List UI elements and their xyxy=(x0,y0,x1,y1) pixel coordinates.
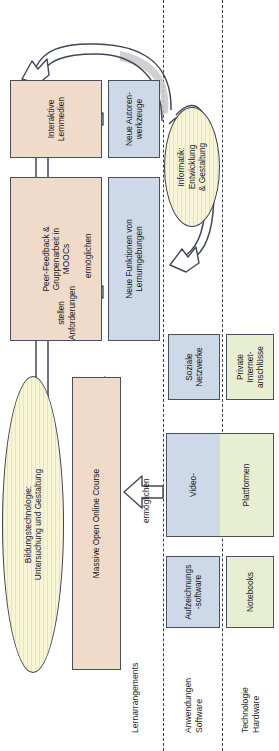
node-informatik[interactable]: Informatik: Entwicklung & Gestaltung xyxy=(164,107,220,227)
node-private-internetanschluesse[interactable]: Private Internet- anschlüsse xyxy=(226,334,274,400)
node-label-top: Video- xyxy=(188,473,198,497)
lane-label-lernarrangements: Lernarrangements xyxy=(130,663,141,733)
node-mooc[interactable]: Massive Open Online Course xyxy=(72,377,121,670)
node-label: Soziale Netzwerke xyxy=(184,347,204,387)
node-bildungstechnologie[interactable]: Bildungstechnologie: Untersuchung und Ge… xyxy=(2,376,64,673)
node-label: Massive Open Online Course xyxy=(91,469,101,578)
edge-label-ermoeglichen-top: ermöglichen xyxy=(84,233,94,278)
node-video-plattformen-bottom-half: Plattformen xyxy=(220,434,273,536)
node-neue-funktionen[interactable]: Neue Funktionen von Lernumgebungen xyxy=(108,177,160,341)
node-label: Aufzeichnungs -software xyxy=(183,565,203,620)
node-label: Interaktive Lernmedien xyxy=(46,97,66,141)
edge-label-ermoeglichen-bottom: ermöglichen xyxy=(142,478,152,523)
node-label: Notebooks xyxy=(245,572,255,612)
node-label: Neue Autoren- werkzeuge xyxy=(124,92,144,146)
node-neue-autorenwerkzeuge[interactable]: Neue Autoren- werkzeuge xyxy=(108,80,160,158)
node-label: Peer-Feedback & Gruppenarbeit in MOOCs xyxy=(41,226,72,291)
node-label-bottom: Plattformen xyxy=(241,464,251,507)
lane-label-anwendungen-software: Anwendungen Software xyxy=(183,678,204,733)
node-label: Bildungstechnologie: Untersuchung und Ge… xyxy=(23,469,44,580)
node-aufzeichnungssoftware[interactable]: Aufzeichnungs -software xyxy=(166,556,220,628)
lane-label-technologie-hardware: Technologie Hardware xyxy=(240,687,261,733)
lane-divider-anwendungen-technologie xyxy=(222,0,223,751)
lane-divider-lernarrangements-anwendungen xyxy=(163,0,164,751)
node-video-plattformen-top-half: Video- xyxy=(167,434,220,536)
node-label: Neue Funktionen von Lernumgebungen xyxy=(124,219,144,299)
node-label: Informatik: Entwicklung & Gestaltung xyxy=(176,143,207,191)
diagram-canvas: Lernarrangements Anwendungen Software Te… xyxy=(0,0,279,751)
arrowhead-to-funktionen xyxy=(170,247,199,272)
node-notebooks[interactable]: Notebooks xyxy=(226,556,274,628)
node-interaktive-lernmedien[interactable]: Interaktive Lernmedien xyxy=(10,80,102,158)
edge-label-stellen-anforderungen: stellen Anforderungen xyxy=(56,286,78,340)
node-video-plattformen[interactable]: Video- Plattformen xyxy=(166,433,274,537)
node-soziale-netzwerke[interactable]: Soziale Netzwerke xyxy=(168,334,220,400)
node-label: Private Internet- anschlüsse xyxy=(235,346,266,388)
